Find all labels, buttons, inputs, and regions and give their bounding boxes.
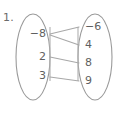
range-elements: −6489 [85, 20, 101, 87]
range-element-9: 9 [85, 74, 92, 87]
domain-element-2: 2 [39, 50, 46, 63]
mapping-diagram-screenshot: 1. −823 −6489 [0, 0, 120, 115]
oval-edge-ticks [50, 27, 78, 81]
mapping-line--8-to--6 [50, 27, 79, 34]
domain-element-3: 3 [39, 69, 46, 82]
range-element--6: −6 [85, 20, 101, 33]
mapping-lines [50, 27, 79, 81]
domain-elements: −823 [30, 27, 46, 82]
range-element-8: 8 [85, 56, 92, 69]
mapping-line-2-to-8 [50, 57, 79, 63]
domain-element--8: −8 [30, 27, 46, 40]
mapping-diagram-svg: −823 −6489 [0, 0, 120, 115]
mapping-line-3-to-9 [50, 77, 79, 81]
range-element-4: 4 [85, 38, 92, 51]
mapping-line--8-to-4 [50, 35, 79, 45]
